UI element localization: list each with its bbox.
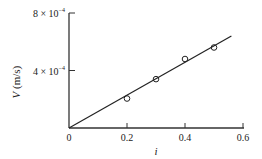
fit-line <box>69 36 231 128</box>
marks <box>69 36 231 128</box>
x-tick-label: 0 <box>67 132 72 143</box>
x-tick-label: 0.6 <box>237 132 250 143</box>
x-tick-label: 0.4 <box>179 132 192 143</box>
y-tick-label: 8 × 10−4 <box>33 7 65 19</box>
chart: 00.20.40.64 × 10−48 × 10−4 V (m/s) i <box>0 0 262 159</box>
y-axis-label: V (m/s) <box>10 65 23 98</box>
x-tick-label: 0.2 <box>121 132 134 143</box>
axes: 00.20.40.64 × 10−48 × 10−4 <box>33 7 249 143</box>
y-tick-label: 4 × 10−4 <box>33 65 65 77</box>
x-axis-label: i <box>154 145 157 157</box>
